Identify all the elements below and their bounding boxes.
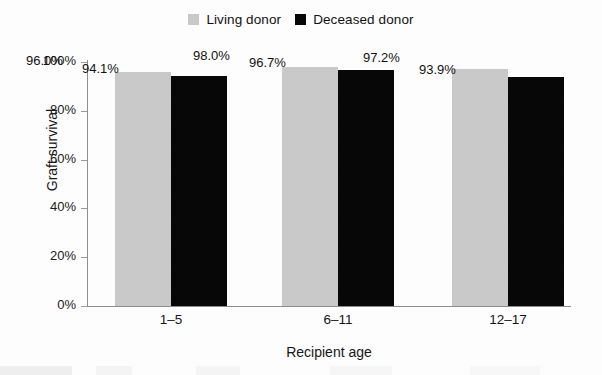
y-axis-tick bbox=[81, 306, 87, 307]
legend-item-deceased-donor: Deceased donor bbox=[295, 12, 413, 27]
x-axis-category-label: 12–17 bbox=[452, 312, 564, 327]
bar-group-bars bbox=[282, 62, 394, 306]
legend-label-living-donor: Living donor bbox=[206, 12, 281, 27]
bar-value-label: 93.9% bbox=[419, 62, 456, 77]
x-axis-title: Recipient age bbox=[87, 344, 571, 360]
bar-value-label: 94.1% bbox=[82, 61, 119, 76]
bar-deceased-donor bbox=[508, 77, 564, 306]
chart-legend: Living donor Deceased donor bbox=[0, 12, 602, 27]
bar-group-bars bbox=[115, 62, 227, 306]
y-axis-tick-label: 80% bbox=[20, 102, 76, 117]
legend-item-living-donor: Living donor bbox=[188, 12, 281, 27]
graft-survival-bar-chart: Living donor Deceased donor Graft surviv… bbox=[0, 0, 602, 375]
bar-value-label: 98.0% bbox=[193, 48, 230, 63]
legend-swatch-deceased-donor bbox=[295, 14, 306, 25]
legend-label-deceased-donor: Deceased donor bbox=[313, 12, 413, 27]
bar-living-donor bbox=[282, 67, 338, 306]
page-caption-artifact bbox=[0, 366, 602, 375]
bar-deceased-donor bbox=[171, 76, 227, 306]
y-axis-tick-label: 60% bbox=[20, 151, 76, 166]
bar-value-label: 96.7% bbox=[249, 55, 286, 70]
bar-value-label: 96.0% bbox=[26, 53, 63, 68]
y-axis-tick-label: 40% bbox=[20, 199, 76, 214]
bar-living-donor bbox=[452, 69, 508, 306]
bar-living-donor bbox=[115, 72, 171, 306]
y-axis-tick-label: 0% bbox=[20, 297, 76, 312]
x-axis-category-label: 6–11 bbox=[282, 312, 394, 327]
bar-group-bars bbox=[452, 62, 564, 306]
bar-value-label: 97.2% bbox=[363, 50, 400, 65]
bar-deceased-donor bbox=[338, 70, 394, 306]
legend-swatch-living-donor bbox=[188, 14, 199, 25]
x-axis-line bbox=[87, 306, 571, 307]
x-axis-category-label: 1–5 bbox=[115, 312, 227, 327]
y-axis-tick-label: 20% bbox=[20, 248, 76, 263]
plot-area bbox=[87, 62, 571, 306]
